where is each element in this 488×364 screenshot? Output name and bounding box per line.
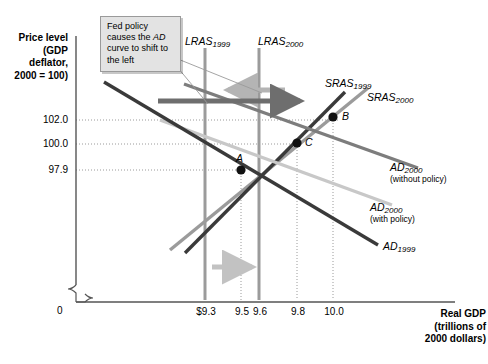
x-tick-9-8: 9.8	[284, 306, 312, 317]
x-axis-title: Real GDP (trillions of 2000 dollars)	[388, 308, 486, 346]
equilibrium-point-c	[292, 138, 301, 147]
origin-label: 0	[57, 305, 63, 316]
ad-2000-w-text: AD	[370, 201, 385, 213]
sras-2000-text: SRAS	[367, 91, 396, 103]
callout-text-before: Fed policy causes the	[107, 21, 153, 42]
curve-label-ad-2000-without-policy: AD2000 (without policy)	[390, 162, 447, 185]
curve-label-ad-1999: AD1999	[383, 241, 415, 253]
ad-as-diagram: Price level (GDP deflator, 2000 = 100) R…	[0, 0, 488, 364]
ad-2000-w-sub: 2000	[385, 206, 403, 215]
ad-1999-text: AD	[383, 240, 398, 252]
curve-ad-2000-with-policy	[160, 120, 392, 205]
ad-2000-w-note: (with policy)	[370, 214, 415, 225]
callout-emphasis: AD	[153, 32, 166, 42]
callout-text-after: curve to shift to the left	[107, 43, 168, 64]
gridlines	[76, 120, 340, 300]
curve-label-sras-2000: SRAS2000	[367, 92, 413, 104]
point-label-c: C	[305, 136, 313, 148]
callout-box: Fed policy causes the AD curve to shift …	[100, 16, 181, 72]
lras-1999-sub: 1999	[212, 40, 230, 49]
lras-2000-sub: 2000	[285, 40, 303, 49]
curve-sras-1999	[185, 92, 345, 253]
curve-label-lras-1999: LRAS1999	[185, 36, 230, 48]
x-tick-10-0: 10.0	[318, 306, 350, 317]
curve-label-sras-1999: SRAS1999	[325, 78, 371, 90]
ad-2000-wo-note: (without policy)	[390, 174, 447, 185]
ad-2000-wo-text: AD	[390, 161, 405, 173]
sras-1999-sub: 1999	[354, 82, 372, 91]
equilibrium-point-b	[328, 112, 337, 121]
lras-2000-text: LRAS	[258, 35, 285, 47]
ad-1999-sub: 1999	[398, 245, 416, 254]
point-label-b: B	[342, 110, 349, 122]
sras-2000-sub: 2000	[396, 96, 414, 105]
y-tick-100: 100.0	[24, 138, 68, 149]
x-tick-9-6: 9.6	[246, 306, 274, 317]
y-tick-97-9: 97.9	[24, 164, 68, 175]
point-label-a: A	[236, 152, 243, 164]
sras-1999-text: SRAS	[325, 77, 354, 89]
equilibrium-point-a	[236, 165, 245, 174]
ad-2000-wo-sub: 2000	[405, 166, 423, 175]
curve-label-lras-2000: LRAS2000	[258, 36, 303, 48]
x-tick-9-3: $9.3	[186, 306, 226, 317]
y-axis-title: Price level (GDP deflator, 2000 = 100)	[0, 32, 68, 82]
y-tick-102: 102.0	[24, 114, 68, 125]
curve-label-ad-2000-with-policy: AD2000 (with policy)	[370, 202, 415, 225]
lras-1999-text: LRAS	[185, 35, 212, 47]
